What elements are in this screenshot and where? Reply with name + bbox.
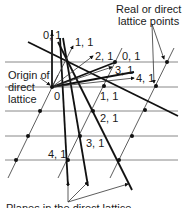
planes-caption: Planes in the direct lattice [6,202,131,208]
label-plane-2-1: 2, 1 [100,112,118,124]
label-plane-4-1: 4, 1 [48,148,66,160]
origin-label-line1: Origin of [8,69,51,81]
label-plane-2-1-top: 2, 1 [95,50,113,62]
lattice-columns [8,48,174,178]
reciprocal-lattice-diagram: 0, 1 1, 1 2, 1 0, 1 3, 1 4, 1 1, 1 2, 1 … [0,0,184,208]
label-plane-1-1: 1, 1 [100,90,118,102]
label-plane-0-1-right: 0, 1 [122,50,140,62]
real-points-label-line1: Real or direct [116,3,181,15]
origin-zero-label: 0 [54,90,60,102]
label-plane-3-1-top: 3, 1 [115,64,133,76]
label-plane-4-1-top: 4, 1 [136,72,154,84]
real-points-label-line2: lattice points [118,15,180,27]
origin-label-line3: lattice [8,93,37,105]
label-plane-0-1: 0, 1 [43,29,61,41]
label-plane-1-1-top: 1, 1 [75,36,93,48]
label-plane-3-1: 3, 1 [86,137,104,149]
origin-label-line2: direct [8,81,35,93]
